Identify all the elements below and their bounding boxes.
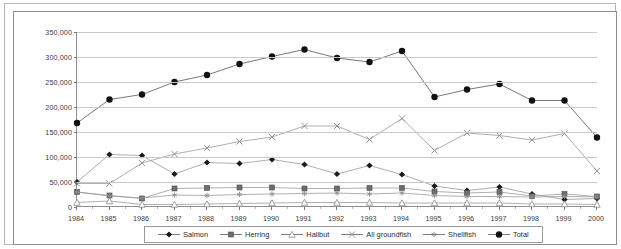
data-point-circle [301,46,307,52]
gridline [77,32,597,33]
legend-label: Shellfish [448,230,476,239]
data-point-triangle [289,231,295,237]
data-point-circle [431,94,437,100]
legend-label: Herring [245,230,269,239]
data-point-diamond [334,171,340,177]
data-point-circle [496,231,502,237]
x-axis-tick-mark [239,207,240,210]
plot-area [76,32,596,207]
x-axis-tick-mark [141,207,142,210]
legend-label: Salmon [183,230,208,239]
x-axis-tick-mark [466,207,467,210]
data-point-circle [139,91,145,97]
legend-item-salmon[interactable]: Salmon [152,230,214,239]
series-halibut [74,198,600,207]
data-point-diamond [366,162,372,168]
data-point-circle [236,61,242,67]
x-axis-minor-tick [320,207,321,209]
legend-marker-circle-icon [488,230,510,239]
legend-item-herring[interactable]: Herring [214,230,275,239]
data-point-diamond [496,184,502,190]
gridline [77,182,597,183]
data-point-diamond [171,171,177,177]
legend-label: Halibut [306,230,329,239]
y-axis-tick-label: 100,000 [45,153,72,162]
data-point-star [432,232,437,237]
y-axis-tick-label: 350,000 [45,28,72,37]
chart-frame: 050,000100,000150,000200,000250,000300,0… [13,11,617,245]
legend-item-all-groundfish[interactable]: All groundfish [335,230,417,239]
x-axis-tick-mark [564,207,565,210]
data-point-circle [204,72,210,78]
x-axis-minor-tick [157,207,158,209]
y-axis-tick-mark [74,57,77,58]
x-axis-minor-tick [450,207,451,209]
data-point-cross [349,231,355,237]
y-axis-tick-label: 250,000 [45,78,72,87]
gridline [77,57,597,58]
x-axis-tick-mark [109,207,110,210]
data-point-square [237,185,242,190]
x-axis-tick-mark [206,207,207,210]
chart-legend: SalmonHerringHalibutAll groundfishShellf… [144,226,543,243]
data-point-cross [399,115,405,121]
x-axis-tick-mark [369,207,370,210]
data-point-cross [431,147,437,153]
x-axis-minor-tick [385,207,386,209]
x-axis-minor-tick [125,207,126,209]
data-point-cross [366,136,372,142]
y-axis-tick-label: 50,000 [49,178,72,187]
x-axis-tick-mark [401,207,402,210]
data-point-cross [139,160,145,166]
data-point-circle [594,134,600,140]
gridline [77,157,597,158]
data-point-diamond [399,171,405,177]
data-point-circle [464,86,470,92]
legend-item-shellfish[interactable]: Shellfish [417,230,482,239]
x-axis-tick-mark [304,207,305,210]
x-axis-minor-tick [222,207,223,209]
series-line [77,50,597,138]
data-point-circle [106,96,112,102]
x-axis-minor-tick [515,207,516,209]
legend-item-total[interactable]: Total [482,230,535,239]
legend-item-halibut[interactable]: Halibut [275,230,335,239]
data-point-circle [529,97,535,103]
legend-marker-diamond-icon [158,230,180,239]
x-axis-minor-tick [190,207,191,209]
data-point-diamond [236,160,242,166]
x-axis-minor-tick [287,207,288,209]
x-axis-minor-tick [580,207,581,209]
data-point-circle [561,97,567,103]
y-axis-tick-label: 0 [68,203,72,212]
data-point-square [205,186,210,191]
x-axis-tick-mark [434,207,435,210]
x-axis-tick-mark [174,207,175,210]
y-axis-tick-mark [74,82,77,83]
data-point-square [302,186,307,191]
data-point-cross [594,168,600,174]
data-point-circle [334,55,340,61]
y-axis-tick-mark [74,32,77,33]
chart-plot-svg [77,32,597,207]
x-axis-tick-mark [76,207,77,210]
x-axis-minor-tick [417,207,418,209]
data-point-square [270,185,275,190]
x-axis-minor-tick [547,207,548,209]
y-axis-tick-label: 300,000 [45,53,72,62]
x-axis-tick-mark [531,207,532,210]
data-point-square [367,186,372,191]
y-axis-tick-label: 200,000 [45,103,72,112]
x-axis-tick-mark [271,207,272,210]
y-axis-tick-mark [74,157,77,158]
data-point-circle [366,59,372,65]
data-point-diamond [204,159,210,165]
x-axis-tick-mark [336,207,337,210]
data-point-square [335,186,340,191]
legend-marker-star-icon [423,230,445,239]
legend-marker-square-icon [220,230,242,239]
data-point-circle [74,120,80,126]
y-axis-tick-mark [74,132,77,133]
legend-marker-cross-icon [341,230,363,239]
x-axis-minor-tick [352,207,353,209]
